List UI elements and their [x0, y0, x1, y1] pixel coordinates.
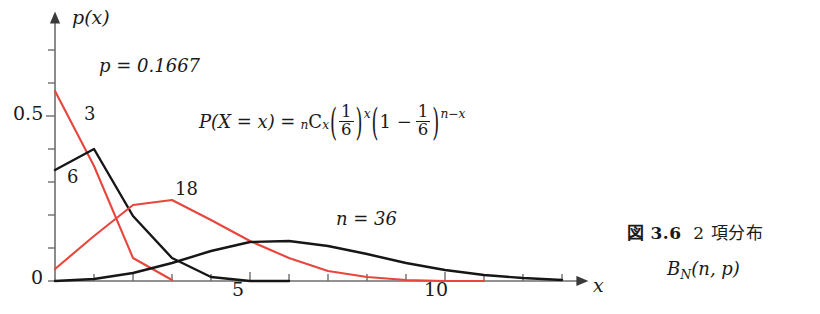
caption-title: 2 項分布 [693, 223, 763, 243]
caption-line-primary: 図 3.6 2 項分布 [627, 219, 763, 244]
y-tick-label-0: 0 [31, 268, 43, 287]
formula-lhs: P(X = x) = [199, 111, 295, 132]
formula-fraction-1: 1 6 [339, 104, 354, 139]
series-line-n6 [55, 149, 289, 281]
caption-distribution-base: B [667, 258, 680, 279]
formula-fraction-2: 1 6 [416, 104, 431, 139]
formula-frac1-denominator: 6 [339, 121, 354, 139]
formula-paren-close-1: ) [356, 100, 363, 143]
formula-comb-x: x [322, 118, 329, 132]
formula-exponent-1: x [364, 107, 371, 121]
figure-caption: 図 3.6 2 項分布 BN(n, p) [627, 219, 763, 279]
y-axis-ticks [46, 50, 55, 281]
series-label-n36: n = 36 [336, 210, 397, 228]
x-tick-label-10: 10 [424, 280, 448, 299]
caption-line-distribution: BN(n, p) [667, 258, 763, 279]
caption-figure-word: 図 [627, 223, 645, 243]
p-parameter-annotation: p = 0.1667 [99, 57, 200, 75]
formula-frac2-numerator: 1 [416, 104, 431, 121]
caption-figure-number: 3.6 [650, 223, 681, 243]
series-line-n36 [55, 241, 562, 281]
formula-one-minus: 1 − [380, 111, 412, 132]
formula-comb-C: C [308, 111, 322, 132]
formula-paren-open-1: ( [330, 100, 337, 143]
caption-distribution-arguments: (n, p) [691, 258, 740, 279]
formula-paren-close-2: ) [432, 100, 439, 143]
figure-container: p(x) x 0.5 0 5 10 p = 0.1667 3 6 18 n = … [0, 0, 820, 314]
series-label-n6: 6 [67, 168, 78, 186]
x-axis-label: x [593, 276, 604, 295]
y-axis-label: p(x) [72, 8, 110, 27]
caption-distribution-subscript: N [680, 267, 691, 282]
series-label-n18: 18 [175, 180, 198, 198]
formula-frac2-denominator: 6 [416, 121, 431, 139]
formula-paren-open-2: ( [372, 100, 379, 143]
formula-exponent-2: n−x [440, 107, 465, 121]
formula-frac1-numerator: 1 [339, 104, 354, 121]
y-tick-label-0.5: 0.5 [13, 104, 43, 123]
pmf-formula: P(X = x) = n C x ( 1 6 ) x ( 1 − 1 6 ) n… [199, 104, 465, 139]
x-tick-label-5: 5 [232, 280, 244, 299]
series-label-n3: 3 [84, 105, 95, 123]
formula-comb-n: n [300, 118, 308, 132]
